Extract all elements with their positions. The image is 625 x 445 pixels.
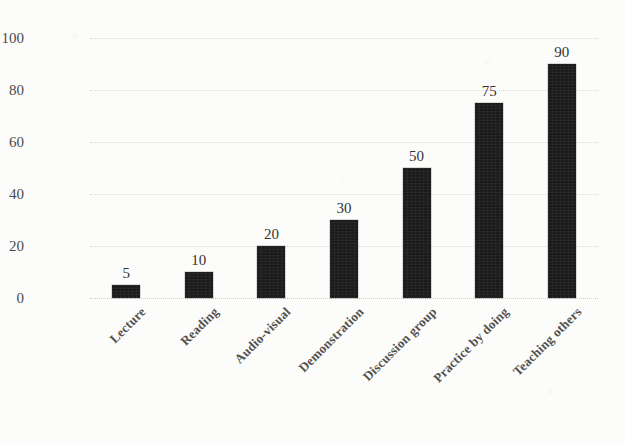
- gridline-80: [90, 90, 598, 91]
- bar-value-label: 10: [191, 252, 206, 269]
- gridline-60: [90, 142, 598, 143]
- y-tick-label-60: 60: [0, 134, 24, 151]
- bar-value-label: 90: [554, 44, 569, 61]
- y-tick-label-40: 40: [0, 186, 24, 203]
- bar-value-label: 75: [482, 83, 497, 100]
- x-tick-label-text: Lecture: [107, 304, 150, 347]
- chart-figure: Percentage retention (%) 020406080100 51…: [0, 0, 625, 445]
- bar-group: 10: [185, 272, 213, 298]
- gridline-100: [90, 38, 598, 39]
- y-axis-title: Percentage retention (%): [22, 0, 42, 58]
- bar-value-label: 20: [264, 226, 279, 243]
- x-tick-label-text: Reading: [177, 304, 222, 349]
- bar-group: 20: [257, 246, 285, 298]
- x-tick-label-text: Discussion group: [359, 304, 440, 385]
- bar: 5: [112, 285, 140, 298]
- y-tick-label-0: 0: [0, 290, 24, 307]
- x-tick-label-text: Practice by doing: [430, 304, 512, 386]
- bar: 50: [403, 168, 431, 298]
- x-tick-label-text: Teaching others: [509, 304, 585, 380]
- y-tick-label-20: 20: [0, 238, 24, 255]
- bar-group: 5: [112, 285, 140, 298]
- bar-group: 50: [403, 168, 431, 298]
- y-tick-label-80: 80: [0, 82, 24, 99]
- bar-value-label: 5: [123, 265, 131, 282]
- bar: 10: [185, 272, 213, 298]
- gridline-40: [90, 194, 598, 195]
- bar-value-label: 30: [337, 200, 352, 217]
- y-tick-label-100: 100: [0, 30, 24, 47]
- bar-value-label: 50: [409, 148, 424, 165]
- x-tick-label-text: Demonstration: [295, 304, 367, 376]
- bar: 20: [257, 246, 285, 298]
- plot-area: 5102030507590: [90, 38, 598, 298]
- x-tick-label-text: Audio-visual: [232, 304, 295, 367]
